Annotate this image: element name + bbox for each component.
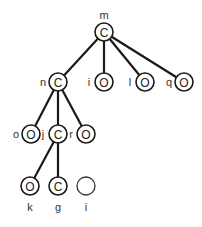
tree-node-l: Ol	[129, 73, 154, 91]
node-glyph: O	[179, 76, 188, 90]
tree-node-m: Cm	[95, 9, 113, 41]
node-glyph: O	[140, 76, 149, 90]
tree-edge-m-n	[58, 32, 104, 82]
tree-nodes: CmCnOiOlOqOoCjOrOkCgi	[13, 9, 193, 213]
tree-node-o: Oo	[13, 125, 40, 143]
tree-node-j: Cj	[41, 125, 67, 143]
node-glyph: C	[54, 180, 63, 194]
tree-node-n: Cn	[40, 73, 67, 91]
node-label: r	[69, 128, 73, 140]
node-glyph: C	[100, 26, 109, 40]
node-label: j	[41, 128, 44, 140]
tree-diagram: CmCnOiOlOqOoCjOrOkCgi	[0, 0, 202, 227]
node-glyph: C	[54, 128, 63, 142]
node-glyph: O	[81, 128, 90, 142]
node-label: q	[166, 76, 172, 88]
node-label: l	[129, 76, 131, 88]
tree-node-g: Cg	[49, 177, 67, 213]
node-glyph: C	[54, 76, 63, 90]
tree-edges	[30, 32, 184, 186]
tree-node-q: Oq	[166, 73, 193, 91]
node-label: k	[27, 201, 33, 213]
tree-node-r: Or	[69, 125, 95, 143]
node-label: m	[99, 9, 108, 21]
node-label: n	[40, 76, 46, 88]
node-label: o	[13, 128, 19, 140]
node-glyph: O	[99, 76, 108, 90]
tree-node-i1: Oi	[88, 73, 113, 91]
node-label: i	[88, 76, 90, 88]
node-label: i	[85, 201, 87, 213]
tree-node-i2: i	[77, 177, 95, 213]
node-glyph: O	[25, 180, 34, 194]
node-glyph: O	[26, 128, 35, 142]
node-circle	[77, 177, 95, 195]
node-label: g	[55, 201, 61, 213]
tree-node-k: Ok	[21, 177, 39, 213]
